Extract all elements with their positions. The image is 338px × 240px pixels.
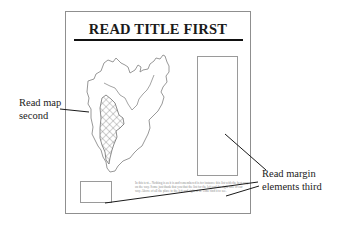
map-hatched-area [100,95,124,164]
map-region-outline [87,55,169,172]
leader-line-map [60,109,89,112]
leader-line-margin-right [225,134,266,170]
label-read-map-line1: Read map [19,96,61,109]
label-read-margin: Read margin elements third [262,167,322,193]
leader-line-margin-text [226,186,259,196]
label-read-margin-line2: elements third [262,180,322,193]
label-read-margin-line1: Read margin [262,167,322,180]
label-read-map-line2: second [19,109,61,122]
leader-line-margin-corner [105,182,258,203]
label-read-map: Read map second [19,96,61,122]
